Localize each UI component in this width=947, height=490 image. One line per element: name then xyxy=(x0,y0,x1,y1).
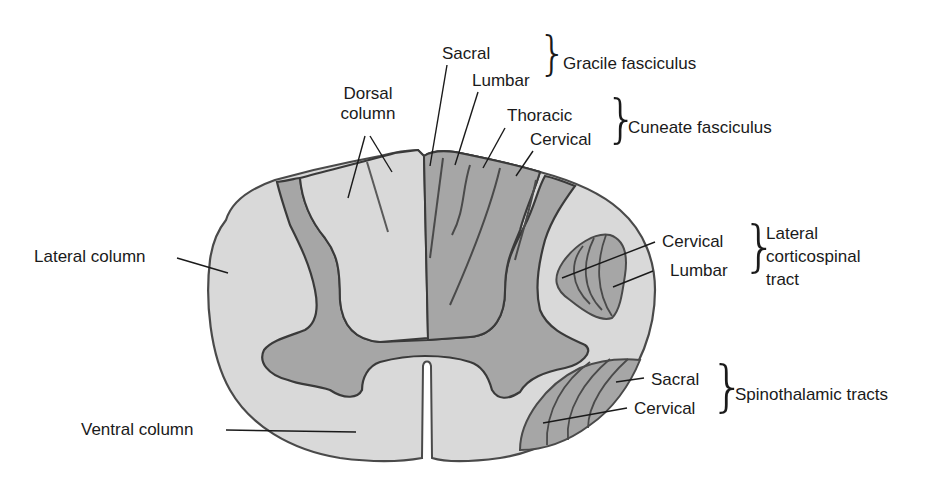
gracile-fasciculus-label: Gracile fasciculus xyxy=(563,54,696,74)
lateral-corticospinal-tract-label: Lateral corticospinal tract xyxy=(766,222,861,291)
ventral-column-label: Ventral column xyxy=(81,420,193,440)
ventral-median-fissure xyxy=(422,362,432,459)
spinal-cord-diagram: Dorsal column Sacral Lumbar } Gracile fa… xyxy=(0,0,947,490)
gracile-lumbar-label: Lumbar xyxy=(472,71,530,91)
cuneate-cervical-label: Cervical xyxy=(530,130,591,150)
spinothalamic-sacral-label: Sacral xyxy=(651,370,699,390)
lateral-column-label: Lateral column xyxy=(34,247,146,267)
spinothalamic-tracts-label: Spinothalamic tracts xyxy=(735,385,888,405)
cuneate-fasciculus-label: Cuneate fasciculus xyxy=(628,118,772,138)
cuneate-thoracic-label: Thoracic xyxy=(507,106,572,126)
dorsal-column-label: Dorsal column xyxy=(320,84,416,124)
corticospinal-cervical-label: Cervical xyxy=(662,232,723,252)
gracile-sacral-label: Sacral xyxy=(442,44,490,64)
spinothalamic-cervical-label: Cervical xyxy=(634,399,695,419)
corticospinal-lumbar-label: Lumbar xyxy=(670,261,728,281)
